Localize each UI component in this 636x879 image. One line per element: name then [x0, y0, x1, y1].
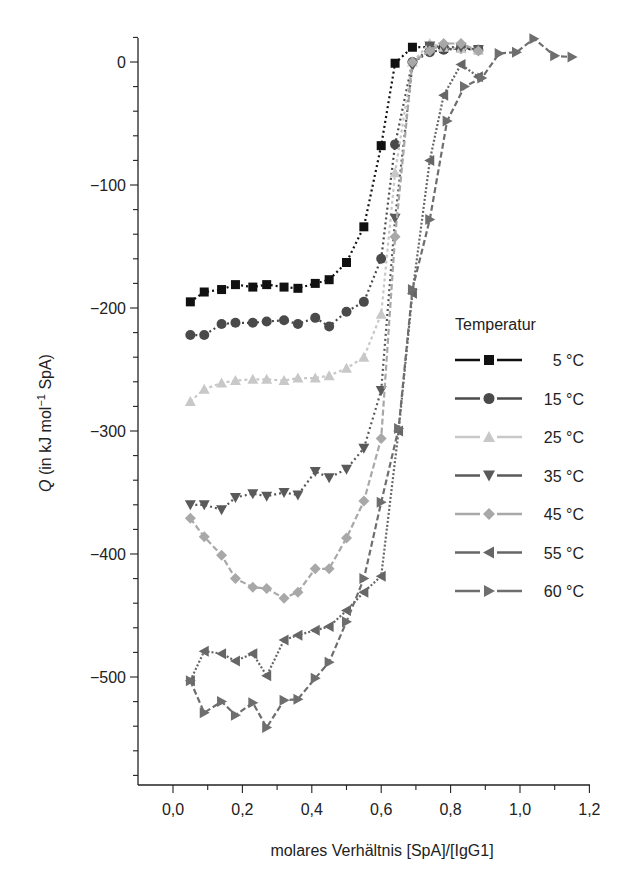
diamond-marker-icon	[279, 593, 290, 604]
plot-area	[185, 33, 578, 733]
triangle-right-marker-icon	[460, 81, 470, 92]
square-marker-icon	[325, 275, 334, 284]
diamond-marker-icon	[230, 573, 241, 584]
series-25c	[185, 38, 484, 406]
circle-marker-icon	[324, 321, 334, 331]
triangle-up-marker-icon	[376, 309, 387, 319]
square-marker-icon	[391, 59, 400, 68]
circle-marker-icon	[376, 254, 386, 264]
triangle-right-marker-icon	[550, 50, 560, 61]
series-15c	[185, 43, 483, 340]
legend-item: 35 °C	[455, 468, 584, 485]
circle-marker-icon	[279, 315, 289, 325]
circle-marker-icon	[293, 319, 303, 329]
legend-label: 15 °C	[544, 391, 584, 408]
triangle-left-marker-icon	[438, 90, 448, 101]
legend-item: 60 °C	[455, 583, 584, 600]
y-tick-label: −400	[90, 546, 126, 563]
legend-label: 60 °C	[544, 583, 584, 600]
square-marker-icon	[280, 283, 289, 292]
x-tick-label: 0,4	[301, 801, 323, 818]
diamond-marker-icon	[247, 582, 258, 593]
triangle-right-marker-icon	[231, 710, 241, 721]
x-tick-label: 0,0	[162, 801, 184, 818]
legend-item: 5 °C	[455, 352, 584, 369]
square-marker-icon	[248, 283, 257, 292]
square-marker-icon	[359, 222, 368, 231]
diamond-marker-icon	[390, 231, 401, 242]
legend-title: Temperatur	[455, 316, 537, 333]
square-marker-icon	[408, 43, 417, 52]
square-marker-icon	[217, 285, 226, 294]
circle-marker-icon	[310, 313, 320, 323]
triangle-up-marker-icon	[341, 363, 352, 373]
square-marker-icon	[342, 258, 351, 267]
y-tick-label: 0	[117, 54, 126, 71]
triangle-down-marker-icon	[230, 493, 241, 503]
square-marker-icon	[200, 288, 209, 297]
series-60c	[186, 33, 578, 733]
y-tick-label: −200	[90, 300, 126, 317]
circle-marker-icon	[230, 318, 240, 328]
square-marker-icon	[262, 280, 271, 289]
triangle-left-marker-icon	[230, 656, 240, 667]
triangle-left-marker-icon	[310, 625, 320, 636]
square-marker-icon	[231, 280, 240, 289]
triangle-right-marker-icon	[200, 707, 210, 718]
legend: Temperatur5 °C15 °C25 °C35 °C45 °C55 °C6…	[455, 316, 584, 600]
legend-item: 25 °C	[455, 429, 584, 446]
square-marker-icon	[311, 279, 320, 288]
x-tick-label: 0,2	[231, 801, 253, 818]
series-45c	[185, 38, 484, 604]
triangle-right-marker-icon	[568, 52, 578, 63]
x-tick-label: 1,0	[509, 801, 531, 818]
y-tick-label: −300	[90, 423, 126, 440]
triangle-up-marker-icon	[292, 373, 303, 383]
legend-item: 55 °C	[455, 545, 584, 562]
triangle-right-marker-icon	[443, 116, 453, 127]
diamond-marker-icon	[376, 433, 387, 444]
square-marker-icon	[186, 297, 195, 306]
diamond-marker-icon	[341, 533, 352, 544]
legend-label: 5 °C	[553, 352, 584, 369]
square-marker-icon	[484, 355, 494, 365]
triangle-down-marker-icon	[185, 500, 196, 510]
triangle-up-marker-icon	[324, 370, 335, 380]
legend-item: 45 °C	[455, 506, 584, 523]
triangle-right-marker-icon	[248, 697, 258, 708]
triangle-right-marker-icon	[529, 33, 539, 44]
legend-label: 35 °C	[544, 468, 584, 485]
circle-marker-icon	[484, 393, 495, 404]
diamond-marker-icon	[358, 496, 369, 507]
triangle-right-marker-icon	[495, 48, 505, 59]
x-tick-label: 1,2	[578, 801, 600, 818]
square-marker-icon	[293, 284, 302, 293]
axes: 0−100−200−300−400−5000,00,20,40,60,81,01…	[90, 37, 601, 818]
triangle-down-marker-icon	[261, 492, 272, 502]
triangle-right-marker-icon	[359, 573, 369, 584]
y-axis-title: Q (in kJ mol−1 SpA)	[35, 354, 54, 492]
triangle-down-marker-icon	[358, 444, 369, 454]
triangle-up-marker-icon	[185, 396, 196, 406]
square-marker-icon	[377, 141, 386, 150]
circle-marker-icon	[248, 318, 258, 328]
circle-marker-icon	[262, 317, 272, 327]
triangle-right-marker-icon	[325, 657, 335, 668]
diamond-marker-icon	[324, 563, 335, 574]
y-tick-label: −500	[90, 669, 126, 686]
triangle-down-marker-icon	[247, 489, 258, 499]
triangle-left-marker-icon	[247, 648, 257, 659]
triangle-up-marker-icon	[199, 384, 210, 394]
triangle-up-marker-icon	[358, 352, 369, 362]
triangle-down-marker-icon	[324, 473, 335, 483]
circle-marker-icon	[199, 330, 209, 340]
triangle-down-marker-icon	[292, 490, 303, 500]
legend-label: 45 °C	[544, 506, 584, 523]
triangle-down-marker-icon	[216, 505, 227, 515]
triangle-down-marker-icon	[341, 465, 352, 475]
x-axis-title: molares Verhältnis [SpA]/[IgG1]	[270, 842, 493, 859]
series-line	[190, 44, 478, 402]
triangle-left-marker-icon	[456, 59, 466, 70]
circle-marker-icon	[359, 297, 369, 307]
triangle-left-marker-icon	[292, 630, 302, 641]
